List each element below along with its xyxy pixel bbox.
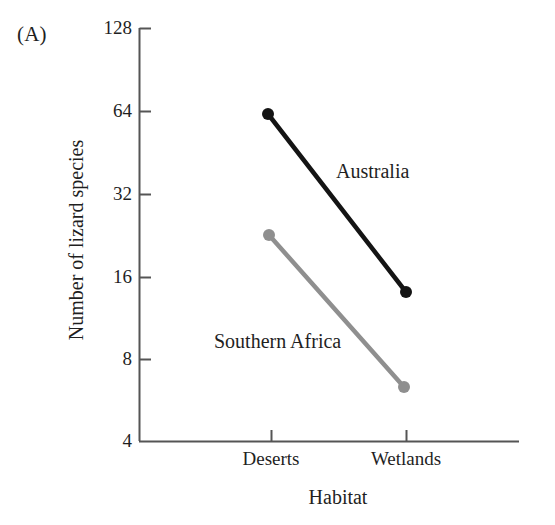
y-tick-label-16: 16 — [88, 266, 132, 288]
data-point-australia-deserts — [262, 108, 274, 120]
data-point-australia-wetlands — [400, 286, 412, 298]
x-axis-title: Habitat — [309, 486, 368, 509]
data-point-southern-africa-wetlands — [398, 381, 410, 393]
y-tick-label-128: 128 — [88, 17, 132, 39]
data-point-southern-africa-deserts — [263, 229, 275, 241]
series-line-australia — [268, 114, 406, 292]
x-tick-label-deserts: Deserts — [243, 448, 300, 470]
chart-canvas — [0, 0, 555, 525]
series-line-southern-africa — [269, 235, 404, 387]
y-tick-label-4: 4 — [88, 430, 132, 452]
y-tick-label-64: 64 — [88, 100, 132, 122]
y-tick-label-8: 8 — [88, 348, 132, 370]
figure-panel-a: (A) 128 64 32 16 8 4 Deserts Wetlands Nu… — [0, 0, 555, 525]
series-label-southern-africa: Southern Africa — [214, 330, 341, 353]
y-tick-label-32: 32 — [88, 183, 132, 205]
x-tick-label-wetlands: Wetlands — [371, 448, 441, 470]
series-label-australia: Australia — [336, 160, 409, 183]
